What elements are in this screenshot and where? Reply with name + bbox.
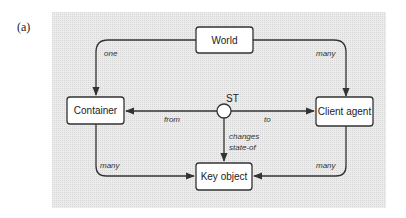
label-from: from xyxy=(164,115,180,124)
node-container-label: Container xyxy=(74,105,118,116)
label-many-world-client: many xyxy=(316,49,337,58)
label-to: to xyxy=(264,115,271,124)
label-state-of: state-of xyxy=(229,143,256,152)
node-client-agent-label: Client agent xyxy=(318,106,372,117)
node-container: Container xyxy=(67,97,124,124)
label-one: one xyxy=(104,49,118,58)
label-changes: changes xyxy=(229,132,259,141)
label-many-client-key: many xyxy=(316,161,337,170)
diagram: one many from to changes state-of many m… xyxy=(0,0,406,218)
node-world-label: World xyxy=(212,35,238,46)
node-key-object-label: Key object xyxy=(201,171,248,182)
node-client-agent: Client agent xyxy=(316,97,373,126)
node-key-object: Key object xyxy=(196,163,252,190)
label-many-container-key: many xyxy=(100,161,121,170)
node-world: World xyxy=(196,27,253,53)
st-label: ST xyxy=(226,93,239,104)
st-junction xyxy=(217,104,231,118)
